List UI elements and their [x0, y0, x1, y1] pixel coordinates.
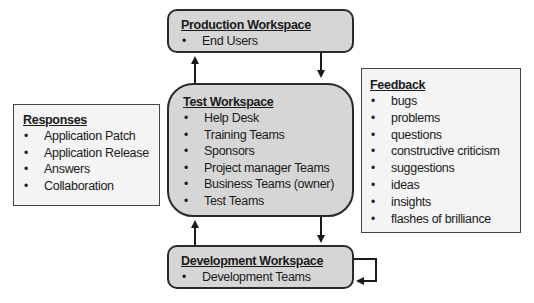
list-item: Application Patch: [23, 128, 159, 145]
arrow-development-self-loop: [353, 259, 376, 281]
list-item: insights: [370, 194, 520, 211]
production-workspace-list: End Users: [181, 33, 352, 50]
list-item: End Users: [181, 33, 352, 50]
responses-title: Responses: [23, 112, 159, 128]
responses-list: Application Patch Application Release An…: [23, 128, 159, 194]
production-workspace-box: Production Workspace End Users: [167, 9, 354, 53]
list-item: bugs: [370, 93, 520, 110]
production-workspace-title: Production Workspace: [181, 17, 352, 33]
list-item: Development Teams: [181, 269, 352, 286]
list-item: flashes of brilliance: [370, 211, 520, 228]
list-item: Test Teams: [183, 193, 352, 210]
development-workspace-box: Development Workspace Development Teams: [167, 245, 354, 289]
test-workspace-title: Test Workspace: [183, 94, 352, 110]
list-item: problems: [370, 110, 520, 127]
list-item: Project manager Teams: [183, 160, 352, 177]
feedback-box: Feedback bugs problems questions constru…: [361, 68, 521, 233]
list-item: Answers: [23, 161, 159, 178]
test-workspace-box: Test Workspace Help Desk Training Teams …: [167, 83, 354, 217]
list-item: Business Teams (owner): [183, 176, 352, 193]
list-item: questions: [370, 127, 520, 144]
test-workspace-list: Help Desk Training Teams Sponsors Projec…: [183, 110, 352, 210]
list-item: Training Teams: [183, 127, 352, 144]
development-workspace-title: Development Workspace: [181, 253, 352, 269]
list-item: Help Desk: [183, 110, 352, 127]
list-item: Collaboration: [23, 178, 159, 195]
feedback-title: Feedback: [370, 77, 520, 93]
list-item: constructive criticism: [370, 143, 520, 160]
list-item: Application Release: [23, 145, 159, 162]
list-item: suggestions: [370, 160, 520, 177]
responses-box: Responses Application Patch Application …: [13, 104, 160, 206]
list-item: ideas: [370, 177, 520, 194]
list-item: Sponsors: [183, 143, 352, 160]
feedback-list: bugs problems questions constructive cri…: [370, 93, 520, 227]
development-workspace-list: Development Teams: [181, 269, 352, 286]
